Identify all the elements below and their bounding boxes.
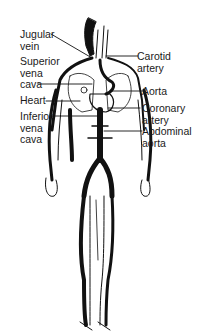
label-heart: Heart xyxy=(20,95,46,107)
label-superior-vena-cava: Superior vena cava xyxy=(20,56,60,91)
label-jugular-vein: Jugular vein xyxy=(20,29,54,52)
circulatory-system-diagram: Jugular vein Superior vena cava Heart In… xyxy=(0,0,205,336)
label-aorta: Aorta xyxy=(142,86,167,98)
label-coronary-artery: Coronary artery xyxy=(142,103,185,126)
label-inferior-vena-cava: Inferior vena cava xyxy=(20,111,53,146)
label-carotid-artery: Carotid artery xyxy=(137,51,171,74)
label-abdominal-aorta: Abdominal aorta xyxy=(142,126,192,149)
